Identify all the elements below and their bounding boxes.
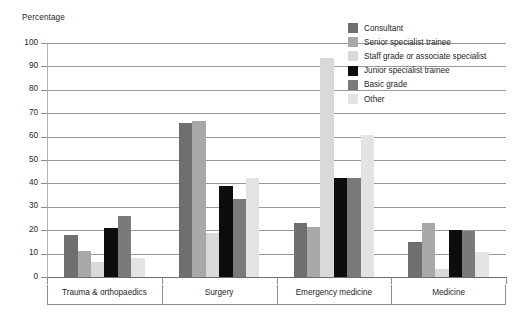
bar <box>233 199 246 277</box>
bar <box>246 178 259 277</box>
bar <box>192 121 205 277</box>
y-tick-label: 100 <box>24 39 38 47</box>
bar <box>435 269 448 277</box>
x-axis-frame <box>47 285 506 305</box>
x-tick <box>391 277 392 284</box>
legend-swatch-icon <box>348 51 358 61</box>
y-tick-label: 40 <box>29 179 38 187</box>
legend-item[interactable]: Basic grade <box>348 78 486 92</box>
bar <box>347 178 360 277</box>
legend-swatch-icon <box>348 23 358 33</box>
legend-label: Senior specialist trainee <box>364 38 451 47</box>
legend-label: Consultant <box>364 24 403 33</box>
y-tick-label: 50 <box>29 156 38 164</box>
y-axis-title: Percentage <box>22 13 65 22</box>
bar <box>307 227 320 277</box>
y-tick-label: 30 <box>29 202 38 210</box>
legend-swatch-icon <box>348 80 358 90</box>
bar <box>408 242 421 277</box>
legend-label: Basic grade <box>364 80 407 89</box>
bar <box>449 230 462 277</box>
bar <box>320 58 333 277</box>
legend-item[interactable]: Other <box>348 92 486 106</box>
x-tick <box>277 277 278 284</box>
y-tick-label: 80 <box>29 85 38 93</box>
bar <box>361 135 374 277</box>
chart-legend: ConsultantSenior specialist traineeStaff… <box>348 21 486 106</box>
legend-label: Staff grade or associate specialist <box>364 52 486 61</box>
bar <box>422 223 435 277</box>
y-tick-label: 0 <box>33 273 38 281</box>
bar <box>219 186 232 277</box>
legend-swatch-icon <box>348 37 358 47</box>
bar <box>334 178 347 277</box>
y-tick-label: 70 <box>29 109 38 117</box>
legend-swatch-icon <box>348 66 358 76</box>
x-tick <box>162 277 163 284</box>
y-tick-label: 90 <box>29 62 38 70</box>
bar <box>206 233 219 277</box>
bar <box>179 123 192 277</box>
chart-container: Percentage 0102030405060708090100 Trauma… <box>0 0 528 316</box>
y-tick-label: 60 <box>29 132 38 140</box>
bar <box>118 216 131 277</box>
bar <box>104 228 117 277</box>
bar <box>78 251 91 277</box>
legend-label: Junior specialist trainee <box>364 66 450 75</box>
x-tick <box>506 277 507 284</box>
x-tick <box>47 277 48 284</box>
bar <box>294 223 307 277</box>
legend-item[interactable]: Staff grade or associate specialist <box>348 49 486 63</box>
bar-group <box>47 43 162 277</box>
y-tick-label: 20 <box>29 226 38 234</box>
legend-item[interactable]: Senior specialist trainee <box>348 35 486 49</box>
bar <box>462 231 475 277</box>
y-tick-label: 10 <box>29 249 38 257</box>
bar <box>91 262 104 277</box>
bar <box>475 252 488 277</box>
legend-item[interactable]: Consultant <box>348 21 486 35</box>
bar <box>64 235 77 277</box>
legend-item[interactable]: Junior specialist trainee <box>348 64 486 78</box>
bar <box>131 258 144 277</box>
legend-swatch-icon <box>348 94 358 104</box>
legend-label: Other <box>364 95 384 104</box>
bar-group <box>162 43 277 277</box>
